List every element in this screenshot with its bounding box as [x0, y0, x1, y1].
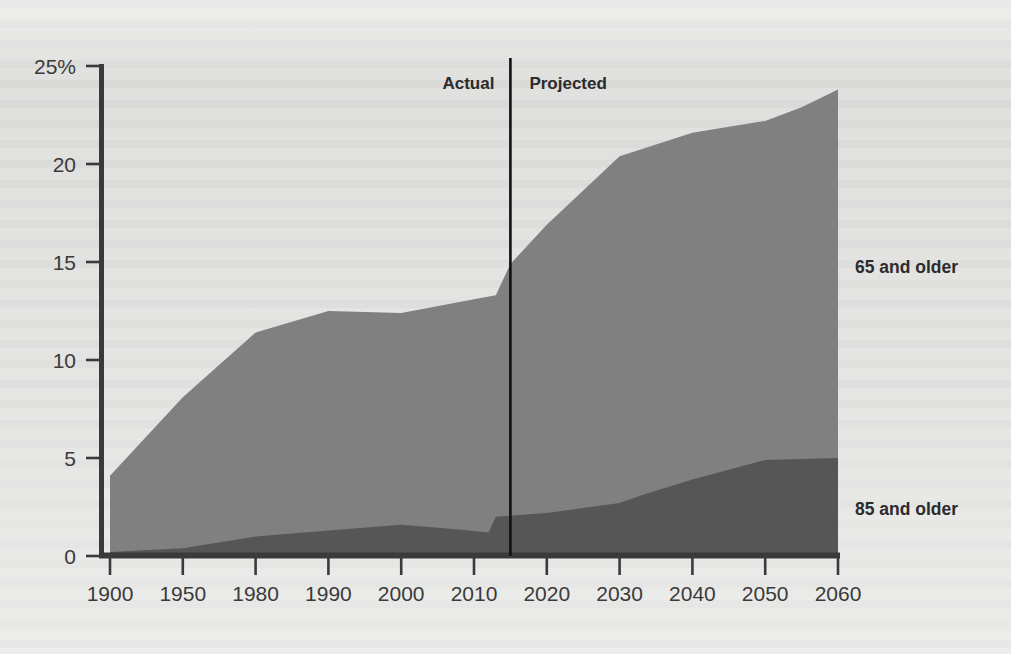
- x-axis-tick-label: 1900: [87, 582, 134, 605]
- x-axis-tick-label: 2030: [596, 582, 643, 605]
- series-label-65-and-older: 65 and older: [855, 257, 958, 277]
- y-axis-tick-label: 15: [53, 251, 76, 274]
- x-axis-tick-label: 2010: [451, 582, 498, 605]
- x-axis-tick-label: 2060: [815, 582, 862, 605]
- series-label-85-and-older: 85 and older: [855, 499, 958, 519]
- x-axis-tick-label: 2040: [669, 582, 716, 605]
- chart-canvas: 25%20151050 1900195019801990200020102020…: [0, 0, 1011, 654]
- y-axis-tick-label: 0: [64, 545, 76, 568]
- y-axis-ticks: 25%20151050: [34, 55, 101, 568]
- x-axis-ticks: 1900195019801990200020102020203020402050…: [87, 558, 862, 605]
- actual-label: Actual: [442, 74, 494, 93]
- x-axis-tick-label: 2020: [523, 582, 570, 605]
- stacked-area-chart: 25%20151050 1900195019801990200020102020…: [0, 0, 1011, 654]
- x-axis-tick-label: 1990: [305, 582, 352, 605]
- y-axis-tick-label: 10: [53, 349, 76, 372]
- y-axis-tick-label: 25%: [34, 55, 76, 78]
- chart-plot-area: [110, 90, 838, 556]
- chart-legend: 65 and older 85 and older: [855, 257, 958, 519]
- x-axis-tick-label: 1950: [159, 582, 206, 605]
- projected-label: Projected: [529, 74, 606, 93]
- x-axis-tick-label: 2050: [742, 582, 789, 605]
- y-axis-tick-label: 5: [64, 447, 76, 470]
- x-axis-tick-label: 1980: [232, 582, 279, 605]
- y-axis-tick-label: 20: [53, 153, 76, 176]
- x-axis-tick-label: 2000: [378, 582, 425, 605]
